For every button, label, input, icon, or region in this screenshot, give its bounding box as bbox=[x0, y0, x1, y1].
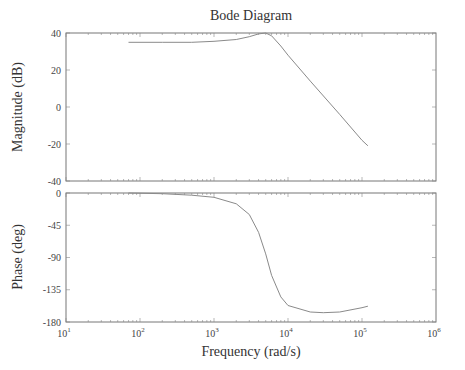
y-tick-label: 40 bbox=[51, 28, 61, 39]
x-tick-label: 106 bbox=[427, 326, 441, 339]
x-tick-label: 101 bbox=[57, 326, 71, 339]
y-tick-label: -45 bbox=[48, 220, 61, 231]
y-tick-label: 20 bbox=[51, 65, 61, 76]
phase-curve bbox=[129, 193, 368, 313]
x-tick-labels: 101102103104105106 bbox=[57, 326, 441, 339]
y-tick-label: -40 bbox=[48, 176, 61, 187]
phase-ylabel: Phase (deg) bbox=[10, 224, 26, 290]
y-tick-label: -90 bbox=[48, 252, 61, 263]
y-tick-label: 0 bbox=[56, 188, 61, 199]
phase-axes: 0-45-90-135-180 Phase (deg) bbox=[10, 188, 436, 328]
x-axis-label: Frequency (rad/s) bbox=[201, 344, 300, 360]
magnitude-axes: 40200-20-40 Magnitude (dB) bbox=[10, 28, 436, 187]
y-tick-label: -180 bbox=[43, 317, 61, 328]
x-tick-label: 105 bbox=[353, 326, 367, 339]
x-tick-label: 104 bbox=[279, 326, 293, 339]
y-tick-label: -135 bbox=[43, 284, 61, 295]
y-tick-label: 0 bbox=[56, 102, 61, 113]
x-tick-label: 103 bbox=[205, 326, 219, 339]
magnitude-ylabel: Magnitude (dB) bbox=[10, 62, 26, 152]
x-tick-label: 102 bbox=[131, 326, 145, 339]
chart-title: Bode Diagram bbox=[210, 8, 292, 23]
y-tick-label: -20 bbox=[48, 139, 61, 150]
bode-diagram: Bode Diagram 40200-20-40 Magnitude (dB) … bbox=[0, 0, 465, 370]
magnitude-curve bbox=[129, 33, 368, 146]
